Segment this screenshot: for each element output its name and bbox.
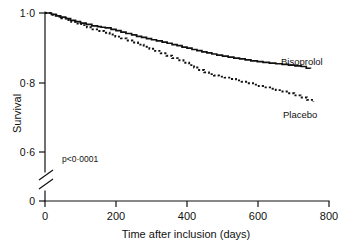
y-axis-break-mark-lower <box>39 179 53 189</box>
p-value-annotation: p<0·0001 <box>62 155 98 164</box>
series-label-bisoprolol: Bisoprolol <box>281 57 323 67</box>
curve-placebo <box>45 13 313 102</box>
y-tick-label-0-6: 0·6 <box>10 147 35 158</box>
y-axis-break-mark-upper <box>39 170 53 180</box>
survival-chart-figure: 1·0 0·8 0·6 0 0 200 400 600 800 Time aft… <box>0 0 347 246</box>
x-tick-label-0: 0 <box>25 211 65 222</box>
x-axis-title: Time after inclusion (days) <box>86 229 286 240</box>
curve-bisoprolol <box>45 13 311 69</box>
y-tick-label-1-0: 1·0 <box>10 8 35 19</box>
x-tick-label-200: 200 <box>96 211 136 222</box>
x-tick-label-600: 600 <box>238 211 278 222</box>
x-tick-label-800: 800 <box>309 211 347 222</box>
chart-canvas <box>0 0 347 246</box>
x-tick-label-400: 400 <box>167 211 207 222</box>
y-axis-title: Survival <box>12 94 23 133</box>
y-tick-label-0-8: 0·8 <box>10 78 35 89</box>
series-label-placebo: Placebo <box>283 110 317 120</box>
y-tick-label-0: 0 <box>10 196 35 207</box>
